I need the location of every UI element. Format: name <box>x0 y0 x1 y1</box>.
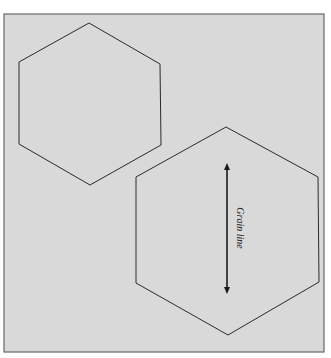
frame <box>4 14 324 352</box>
hexagon-template-diagram: Grain line <box>0 0 331 358</box>
grain-line-label: Grain line <box>235 207 246 249</box>
